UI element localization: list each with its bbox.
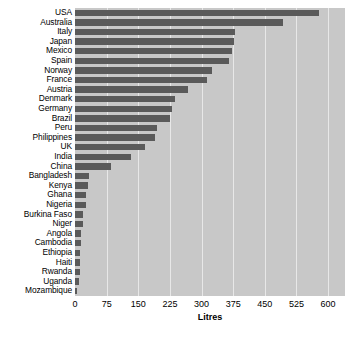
bar-row [75,200,86,210]
bar-row [75,37,234,47]
bar-row [75,142,145,152]
bar-row [75,286,77,296]
bar [75,48,232,54]
bar [75,259,80,265]
x-tick-label: 450 [257,298,272,310]
bar-row [75,267,80,277]
bar [75,202,86,208]
x-axis-tick-labels: 075150225300375450525600 [75,298,345,310]
bar [75,240,81,246]
bar-row [75,229,81,239]
x-tick-label: 525 [289,298,304,310]
bar [75,278,79,284]
bar-row [75,75,207,85]
bar [75,96,175,102]
bar-row [75,66,212,76]
bar-row [75,104,172,114]
x-tick-label: 375 [226,298,241,310]
bar-chart: USAAustraliaItalyJapanMexicoSpainNorwayF… [0,0,359,344]
bar-row [75,238,81,248]
bar [75,154,131,160]
bar-row [75,277,79,287]
bar-row [75,114,170,124]
bar-row [75,171,89,181]
bars-layer [75,8,345,296]
bar-row [75,27,235,37]
x-axis-title: Litres [75,312,345,322]
bar [75,230,81,236]
bar [75,144,145,150]
bar [75,288,77,294]
bar [75,10,319,16]
bar [75,86,188,92]
bar [75,67,212,73]
category-axis-labels: USAAustraliaItalyJapanMexicoSpainNorwayF… [0,8,72,296]
bar [75,134,155,140]
bar-row [75,56,229,66]
x-tick-label: 0 [72,298,77,310]
bar [75,192,86,198]
category-label: Mozambique [0,286,72,296]
bar-row [75,46,232,56]
bar-row [75,162,111,172]
bar-row [75,94,175,104]
bar [75,38,234,44]
x-tick-label: 150 [131,298,146,310]
bar [75,58,229,64]
bar [75,19,283,25]
plot-area [75,8,345,296]
bar [75,221,83,227]
bar-row [75,248,80,258]
bar-row [75,181,88,191]
bar [75,211,83,217]
bar-row [75,18,283,28]
bar-row [75,219,83,229]
x-tick-label: 225 [162,298,177,310]
x-tick-label: 300 [194,298,209,310]
bar-row [75,258,80,268]
bar-row [75,210,83,220]
bar-row [75,152,131,162]
bar-row [75,8,319,18]
bar [75,269,80,275]
x-tick-label: 75 [102,298,112,310]
bar [75,163,111,169]
bar-row [75,133,155,143]
bar [75,77,207,83]
bar-row [75,190,86,200]
bar-row [75,123,157,133]
bar [75,250,80,256]
bar [75,125,157,131]
x-tick-label: 600 [321,298,336,310]
bar [75,115,170,121]
bar [75,29,235,35]
bar [75,173,89,179]
bar [75,106,172,112]
bar-row [75,85,188,95]
bar [75,182,88,188]
